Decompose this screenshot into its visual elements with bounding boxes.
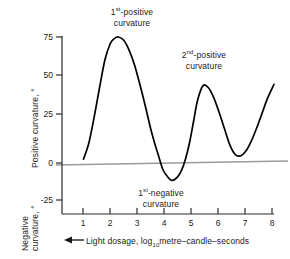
annotation-line1: 1st-negative bbox=[138, 188, 184, 198]
zero-reference-line bbox=[56, 161, 288, 165]
x-tick-labels: 1 2 3 4 5 6 7 8 bbox=[81, 218, 275, 228]
chart-canvas: 75 50 25 0 -25 1 2 3 4 5 6 7 8 bbox=[0, 0, 290, 259]
y-tick-label: 75 bbox=[44, 32, 54, 42]
y-tick-label: -25 bbox=[41, 195, 54, 205]
annotation-line2: curvature bbox=[106, 199, 216, 210]
y-tick-label: 0 bbox=[48, 158, 53, 168]
annotation-first-negative: 1st-negative curvature bbox=[106, 185, 216, 210]
y-axis-title-negative-line1: Negative bbox=[20, 216, 30, 251]
x-tick-label: 5 bbox=[189, 218, 194, 228]
x-tick-label: 4 bbox=[162, 218, 167, 228]
annotation-line2: curvature bbox=[146, 61, 262, 72]
x-tick-label: 1 bbox=[81, 218, 86, 228]
x-tick-label: 2 bbox=[108, 218, 113, 228]
annotation-line1: 2nd-positive bbox=[182, 50, 226, 60]
figure-container: 75 50 25 0 -25 1 2 3 4 5 6 7 8 bbox=[0, 0, 290, 259]
annotation-line1: 1st-positive bbox=[111, 7, 153, 17]
y-axis-title-negative-line2: curvature, ° bbox=[30, 205, 40, 251]
x-tick-label: 3 bbox=[135, 218, 140, 228]
y-tick-label: 50 bbox=[44, 70, 54, 80]
annotation-first-positive: 1st-positive curvature bbox=[74, 4, 190, 29]
x-axis-title-b: metre–candle–seconds bbox=[159, 236, 249, 246]
x-axis-title: Light dosage, log10metre–candle–seconds bbox=[62, 236, 288, 248]
x-tick-label: 8 bbox=[270, 218, 275, 228]
x-axis-title-a: Light dosage, log bbox=[86, 236, 152, 246]
annotation-second-positive: 2nd-positive curvature bbox=[146, 47, 262, 72]
y-axis-title-positive: Positive curvature, ° bbox=[30, 88, 40, 168]
annotation-line2: curvature bbox=[74, 18, 190, 29]
x-tick-label: 7 bbox=[243, 218, 248, 228]
y-axis-ticks bbox=[56, 37, 62, 200]
x-tick-label: 6 bbox=[216, 218, 221, 228]
y-tick-label: 25 bbox=[44, 109, 54, 119]
y-tick-labels: 75 50 25 0 -25 bbox=[41, 32, 54, 205]
